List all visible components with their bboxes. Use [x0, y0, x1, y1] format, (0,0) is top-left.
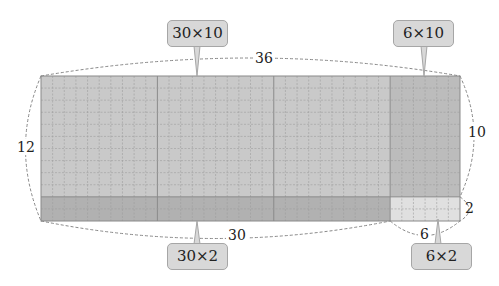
dimension-label-bottom-right: 6	[418, 226, 431, 242]
callout-6x10: 6×10	[393, 20, 454, 47]
dimension-curve-bottom-left	[41, 221, 390, 239]
callout-6x2: 6×2	[411, 243, 472, 270]
dimension-label-top: 36	[253, 50, 275, 66]
area-model-diagram: 36 12 10 2 30 6 30×10 6×10 30×2 6×2	[0, 0, 499, 286]
callout-30x10: 30×10	[167, 20, 228, 47]
dimension-label-right-upper: 10	[466, 124, 488, 140]
dimension-curve-top	[41, 58, 460, 76]
callout-30x2: 30×2	[167, 243, 228, 270]
dimension-label-left: 12	[15, 139, 37, 155]
dimension-label-bottom-left: 30	[226, 227, 248, 243]
dimension-label-right-lower: 2	[463, 200, 476, 216]
